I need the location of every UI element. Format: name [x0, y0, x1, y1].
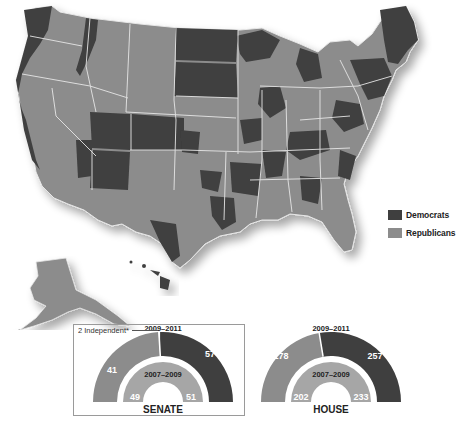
contiguous-us: [16, 6, 418, 268]
house-title: HOUSE: [301, 404, 361, 415]
democrats-swatch: [388, 210, 402, 220]
independent-leader-line: [132, 330, 158, 331]
house-outer-dem-value: 257: [362, 351, 388, 361]
senate-inner-period: 2007–2009: [133, 370, 193, 379]
republicans-swatch: [388, 228, 402, 238]
senate-chart: 41 57 49 51 2009–2011 2007–2009 SENATE: [88, 330, 238, 420]
legend-label: Republicans: [406, 228, 455, 238]
legend-label: Democrats: [406, 210, 449, 220]
house-inner-rep-value: 202: [288, 392, 314, 402]
house-inner-period: 2007–2009: [301, 370, 361, 379]
map-svg: [0, 0, 460, 330]
house-outer-period: 2009–2011: [301, 324, 361, 333]
senate-outer-dem-value: 57: [200, 349, 220, 359]
senate-outer-period: 2009–2011: [133, 324, 193, 333]
senate-inner-dem-value: 51: [181, 392, 201, 402]
us-election-map: [0, 0, 460, 330]
alaska: [6, 258, 130, 330]
senate-inner-rep-value: 49: [125, 392, 145, 402]
legend-item-republicans: Republicans: [388, 225, 455, 241]
house-chart: 178 257 202 233 2009–2011 2007–2009 HOUS…: [256, 330, 406, 420]
independent-annotation: 2 Independent*: [78, 326, 129, 335]
map-legend: Democrats Republicans: [388, 207, 455, 243]
senate-outer-rep-value: 41: [102, 365, 122, 375]
senate-title: SENATE: [133, 404, 193, 415]
house-inner-dem-value: 233: [348, 392, 374, 402]
hawaii: [130, 261, 171, 291]
legend-item-democrats: Democrats: [388, 207, 455, 223]
house-outer-rep-value: 178: [268, 351, 294, 361]
